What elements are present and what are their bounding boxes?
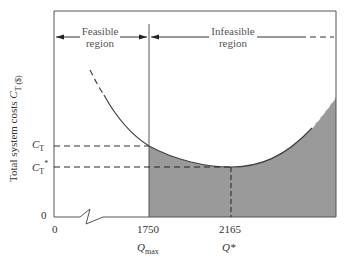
y-tick-ctstar: CT* (32, 159, 48, 176)
infeasible-region-label: Infeasible region (209, 25, 257, 49)
y-axis-title-sub: T ($) (14, 75, 23, 91)
x-tick-zero: 0 (52, 223, 58, 235)
y-axis-title-var: C (7, 91, 19, 98)
qmax-label: Qmax (137, 241, 159, 256)
feasible-region-label: Feasible region (80, 25, 120, 49)
feasible-label-line1: Feasible (80, 25, 120, 37)
y-axis-title: Total system costs CT ($) (7, 59, 22, 199)
y-tick-zero: 0 (41, 209, 47, 221)
y-tick-ct: CT (32, 138, 44, 153)
feasible-arrow-right-head (139, 35, 147, 40)
qstar-label: Q* (222, 241, 235, 253)
infeasible-label-line1: Infeasible (209, 25, 257, 37)
y-axis-title-text: Total system costs (7, 99, 19, 182)
infeasible-arrow-left-head (151, 35, 159, 40)
x-tick-1750: 1750 (137, 223, 159, 235)
feasible-arrow-left-head (56, 35, 64, 40)
cost-curve-dashed-left (90, 70, 104, 95)
feasible-label-line2: region (80, 37, 120, 49)
infeasible-label-line2: region (209, 37, 257, 49)
x-tick-2165: 2165 (219, 223, 241, 235)
infeasible-shaded-area (149, 97, 336, 217)
